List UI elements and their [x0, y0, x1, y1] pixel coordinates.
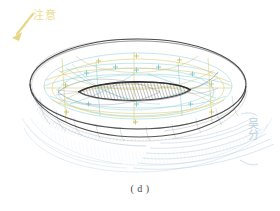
- torus-sketch: [0, 0, 280, 211]
- torus-inner-hole: [78, 72, 218, 101]
- artist-signature: 吴分: [243, 118, 259, 140]
- annotation-arrow: [12, 14, 33, 41]
- sketch-canvas: 注意 吴分 ( d ): [0, 0, 280, 211]
- annotation-label: 注意: [33, 6, 57, 22]
- figure-caption: ( d ): [0, 183, 280, 194]
